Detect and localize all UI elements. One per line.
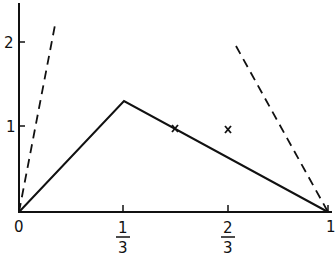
- x-tick-label-2-3-den: 3: [223, 239, 233, 257]
- dashed-line-left: [19, 25, 55, 212]
- marker-x-2: [225, 126, 231, 133]
- x-tick-label-1-3-den: 3: [118, 239, 128, 257]
- x-tick-label-1: 1: [326, 218, 336, 236]
- solid-line: [19, 101, 328, 212]
- chart: 2 1 0 1 3 2 3 1: [0, 0, 336, 258]
- y-tick-label-2: 2: [4, 34, 14, 52]
- x-tick-label-1-3-num: 1: [118, 219, 128, 237]
- x-tick-label-2-3-num: 2: [223, 219, 233, 237]
- y-tick-label-1: 1: [6, 118, 16, 136]
- x-tick-label-0: 0: [14, 218, 24, 236]
